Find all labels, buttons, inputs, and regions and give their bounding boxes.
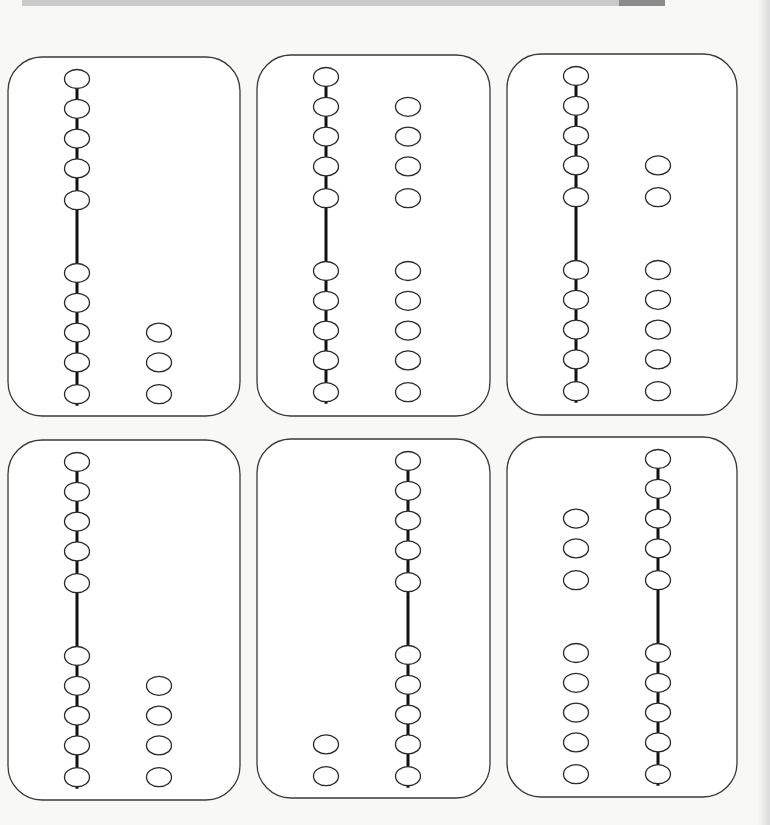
strand-bead-lower xyxy=(65,736,90,755)
loose-bead-lower xyxy=(646,290,671,309)
strand-bead-lower xyxy=(646,765,671,784)
strand-bead-lower xyxy=(396,675,421,694)
abacus-card xyxy=(257,439,490,798)
strand-bead-upper xyxy=(646,450,671,469)
strand-bead-upper xyxy=(646,509,671,528)
loose-bead-upper xyxy=(396,127,421,146)
loose-bead-lower xyxy=(564,703,589,722)
strand-bead-lower xyxy=(646,733,671,752)
loose-bead-lower xyxy=(396,321,421,340)
strand-bead-upper xyxy=(564,188,589,207)
loose-bead-lower xyxy=(564,673,589,692)
loose-bead-lower xyxy=(646,320,671,339)
card-frame xyxy=(8,440,240,800)
card-frame xyxy=(507,54,737,415)
strand-bead-upper xyxy=(646,539,671,558)
strand-bead-upper xyxy=(564,96,589,115)
loose-bead-lower xyxy=(646,382,671,401)
loose-bead-lower xyxy=(147,385,172,404)
strand-bead-upper xyxy=(564,126,589,145)
loose-bead-lower xyxy=(314,735,339,754)
strand-bead-lower xyxy=(65,323,90,342)
loose-bead-upper xyxy=(564,539,589,558)
strand-bead-upper xyxy=(314,189,339,208)
strand-bead-lower xyxy=(564,290,589,309)
loose-bead-lower xyxy=(147,323,172,342)
card-frame xyxy=(257,55,490,416)
strand-bead-upper xyxy=(564,156,589,175)
strand-bead-upper xyxy=(646,571,671,590)
loose-bead-upper xyxy=(396,157,421,176)
strand-bead-upper xyxy=(396,511,421,530)
strand-bead-upper xyxy=(65,191,90,210)
strand-bead-upper xyxy=(396,573,421,592)
strand-bead-lower xyxy=(564,320,589,339)
loose-bead-upper xyxy=(564,571,589,590)
loose-bead-upper xyxy=(564,509,589,528)
loose-bead-lower xyxy=(564,644,589,663)
loose-bead-lower xyxy=(147,706,172,725)
loose-bead-lower xyxy=(646,350,671,369)
strand-bead-lower xyxy=(65,768,90,787)
loose-bead-lower xyxy=(564,765,589,784)
loose-bead-lower xyxy=(396,262,421,281)
strand-bead-upper xyxy=(314,127,339,146)
loose-bead-lower xyxy=(314,767,339,786)
strand-bead-lower xyxy=(646,673,671,692)
strand-bead-upper xyxy=(65,512,90,531)
loose-bead-lower xyxy=(147,676,172,695)
strand-bead-lower xyxy=(65,647,90,666)
strand-bead-upper xyxy=(65,482,90,501)
strand-bead-upper xyxy=(314,97,339,116)
strand-bead-upper xyxy=(396,541,421,560)
loose-bead-upper xyxy=(396,97,421,116)
loose-bead-lower xyxy=(396,383,421,402)
card-frame xyxy=(257,439,490,798)
loose-bead-upper xyxy=(396,189,421,208)
strand-bead-upper xyxy=(65,453,90,472)
strand-bead-lower xyxy=(396,646,421,665)
strand-bead-lower xyxy=(564,382,589,401)
abacus-card xyxy=(507,54,737,415)
strand-bead-upper xyxy=(65,129,90,148)
strand-bead-lower xyxy=(564,350,589,369)
strand-bead-upper xyxy=(65,99,90,118)
bead-worksheet xyxy=(0,0,770,825)
strand-bead-lower xyxy=(396,735,421,754)
strand-bead-upper xyxy=(646,479,671,498)
strand-bead-lower xyxy=(65,706,90,725)
loose-bead-lower xyxy=(396,291,421,310)
strand-bead-upper xyxy=(564,67,589,86)
strand-bead-lower xyxy=(564,261,589,280)
strand-bead-upper xyxy=(396,481,421,500)
abacus-card xyxy=(8,440,240,800)
strand-bead-lower xyxy=(65,676,90,695)
strand-bead-upper xyxy=(65,70,90,89)
card-frame xyxy=(8,57,240,416)
card-frame xyxy=(507,437,737,797)
strand-bead-lower xyxy=(314,351,339,370)
loose-bead-lower xyxy=(147,768,172,787)
loose-bead-upper xyxy=(646,156,671,175)
strand-bead-lower xyxy=(646,644,671,663)
strand-bead-lower xyxy=(396,767,421,786)
strand-bead-lower xyxy=(65,264,90,283)
abacus-card xyxy=(507,437,737,797)
strand-bead-lower xyxy=(65,385,90,404)
strand-bead-lower xyxy=(314,383,339,402)
strand-bead-lower xyxy=(396,705,421,724)
strand-bead-lower xyxy=(65,353,90,372)
strand-bead-lower xyxy=(314,262,339,281)
strand-bead-lower xyxy=(65,293,90,312)
strand-bead-upper xyxy=(314,157,339,176)
strand-bead-lower xyxy=(314,291,339,310)
loose-bead-lower xyxy=(147,736,172,755)
strand-bead-upper xyxy=(65,574,90,593)
loose-bead-upper xyxy=(646,188,671,207)
abacus-card xyxy=(257,55,490,416)
strand-bead-upper xyxy=(65,159,90,178)
strand-bead-upper xyxy=(65,542,90,561)
strand-bead-upper xyxy=(396,452,421,471)
loose-bead-lower xyxy=(147,353,172,372)
strand-bead-lower xyxy=(646,703,671,722)
